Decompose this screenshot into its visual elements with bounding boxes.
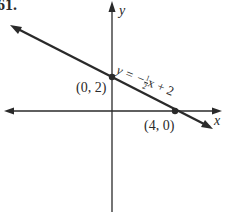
x-axis	[4, 108, 222, 115]
graph	[0, 0, 226, 212]
y-axis	[109, 1, 116, 212]
y-axis-label: y	[119, 3, 125, 19]
line-left-arrow-icon	[10, 25, 22, 34]
point-label-y-intercept: (0, 2)	[76, 80, 106, 96]
y-axis-up-arrow-icon	[109, 1, 116, 12]
point-label-x-intercept: (4, 0)	[144, 118, 174, 134]
x-axis-label: x	[214, 113, 220, 129]
x-axis-left-arrow-icon	[4, 108, 14, 115]
point-x-intercept	[172, 108, 178, 114]
line-right-arrow-icon	[201, 120, 213, 129]
